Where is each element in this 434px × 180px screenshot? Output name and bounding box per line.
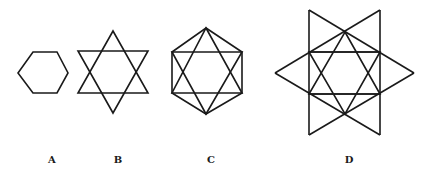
figure-c-label: C	[207, 154, 215, 165]
figure-b-hexagram	[78, 31, 148, 113]
figure-b-label: B	[114, 154, 122, 165]
figure-c-hexagon-hexagram	[172, 28, 242, 114]
figure-canvas	[0, 0, 434, 180]
figure-d-extended-star	[275, 10, 414, 135]
figure-d-label: D	[345, 154, 354, 165]
figure-a-label: A	[48, 154, 56, 165]
figure-a-hexagon	[18, 52, 68, 93]
